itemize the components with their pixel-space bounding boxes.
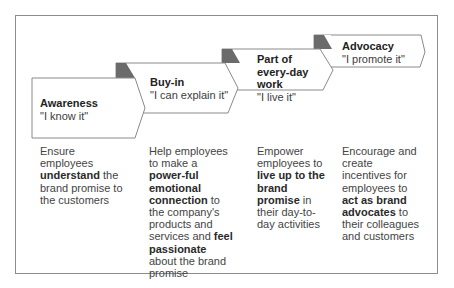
stage-quote: "I know it": [40, 110, 98, 123]
stage-title: Part of every-day work: [257, 53, 327, 91]
stage-label-buy-in: Buy-in "I can explain it": [150, 76, 228, 101]
stage-label-advocacy: Advocacy "I promote it": [342, 40, 405, 65]
stage-title: Buy-in: [150, 76, 228, 89]
stage-quote: "I promote it": [342, 53, 405, 66]
stage-label-everyday-work: Part of every-day work "I live it": [257, 53, 327, 103]
stage-description-buy-in: Help employees to make a power-ful emoti…: [149, 145, 233, 279]
stage-quote: "I can explain it": [150, 89, 228, 102]
stage-title: Awareness: [40, 97, 98, 110]
stage-description-everyday-work: Empower employees to live up to the bran…: [257, 145, 329, 230]
stage-description-awareness: Ensure employees understand the brand pr…: [40, 145, 124, 206]
stage-title: Advocacy: [342, 40, 405, 53]
stage-quote: "I live it": [257, 91, 327, 104]
stage-label-awareness: Awareness "I know it": [40, 97, 98, 122]
stage-description-advocacy: Encourage and create incentives for empl…: [342, 145, 422, 243]
